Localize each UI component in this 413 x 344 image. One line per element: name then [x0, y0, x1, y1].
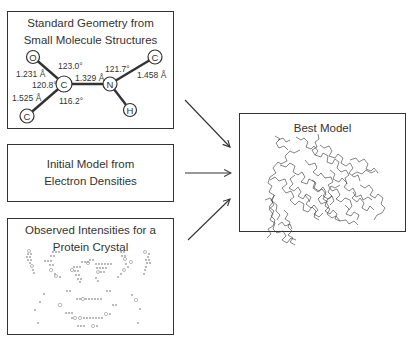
svg-text:O: O: [29, 52, 36, 63]
diffraction-pattern: [26, 250, 151, 328]
svg-text:H: H: [127, 105, 134, 116]
svg-text:N: N: [107, 79, 114, 90]
protein-model-structure: [265, 134, 385, 245]
bond-length-c-o: 1.231 Å: [16, 69, 46, 79]
arrows: [185, 100, 231, 240]
angle-c-c-n: 116.2°: [59, 96, 83, 106]
atom-c-right: C: [148, 50, 162, 64]
svg-text:C: C: [24, 111, 31, 122]
svg-text:C: C: [61, 79, 68, 90]
atom-n: N: [103, 77, 117, 91]
angle-o-c-c: 120.8°: [32, 80, 57, 90]
diffraction-arc-center: [70, 259, 112, 283]
bond-length-n-c: 1.458 Å: [137, 70, 167, 80]
angle-o-c-n: 123.0°: [58, 61, 83, 71]
diagram-graphics: O C N C H C 1.231 Å: [0, 0, 413, 344]
atom-c-central: C: [56, 76, 72, 92]
atom-c-left: C: [20, 109, 34, 123]
diffraction-arc-left-inner: [44, 251, 61, 278]
diffraction-arc-right: [143, 251, 151, 275]
angle-c-n-c: 121.7°: [105, 64, 130, 74]
diffraction-arc-left: [26, 250, 35, 274]
bond-length-c-c: 1.525 Å: [12, 93, 42, 103]
svg-text:C: C: [152, 52, 159, 63]
diffraction-arc-right-inner: [117, 251, 132, 278]
atom-h: H: [124, 104, 137, 117]
bond-length-c-n: 1.329 Å: [75, 73, 105, 83]
arrow-geometry-to-model: [185, 100, 230, 147]
atom-o: O: [27, 51, 40, 64]
molecule-diagram: O C N C H C 1.231 Å: [12, 50, 167, 123]
diffraction-lower-rings: [34, 290, 141, 328]
arrow-intensities-to-model: [188, 199, 230, 240]
